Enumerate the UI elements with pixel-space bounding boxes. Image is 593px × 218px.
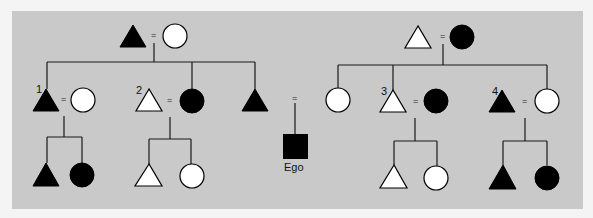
grandfather-right-triangle-icon — [405, 26, 431, 48]
aunt-circle-icon — [326, 88, 350, 112]
ego-label: Ego — [284, 162, 304, 173]
female-2-spouse-circle-icon — [180, 89, 204, 113]
child-2a-triangle-icon — [135, 164, 162, 186]
kinship-diagram — [0, 0, 593, 218]
marriage-sign-4: = — [522, 97, 527, 106]
marriage-sign-2: = — [167, 96, 172, 105]
ego-square-icon — [283, 134, 308, 159]
number-label-1: 1 — [36, 84, 42, 95]
number-label-3: 3 — [381, 86, 387, 97]
marriage-sign-grandparents-left: = — [151, 31, 156, 40]
child-2b-circle-icon — [180, 164, 204, 188]
uncle-triangle-icon — [242, 89, 268, 111]
marriage-sign-grandparents-right: = — [440, 32, 445, 41]
number-label-2: 2 — [136, 85, 142, 96]
child-4b-circle-icon — [535, 166, 559, 190]
number-label-4: 4 — [492, 86, 498, 97]
child-1b-circle-icon — [70, 163, 94, 187]
grandmother-left-circle-icon — [163, 24, 187, 48]
marriage-sign-1: = — [61, 95, 66, 104]
child-3a-triangle-icon — [380, 165, 407, 188]
child-3b-circle-icon — [424, 166, 448, 190]
child-4a-triangle-icon — [489, 165, 516, 189]
marriage-sign-3: = — [413, 97, 418, 106]
female-1-spouse-circle-icon — [71, 88, 95, 112]
grandfather-left-triangle-icon — [120, 25, 146, 47]
female-3-spouse-circle-icon — [424, 89, 448, 113]
female-4-spouse-circle-icon — [535, 89, 559, 113]
child-1a-triangle-icon — [33, 163, 59, 186]
marriage-sign-ego-parents: = — [292, 94, 297, 103]
grandmother-right-circle-icon — [450, 25, 474, 49]
